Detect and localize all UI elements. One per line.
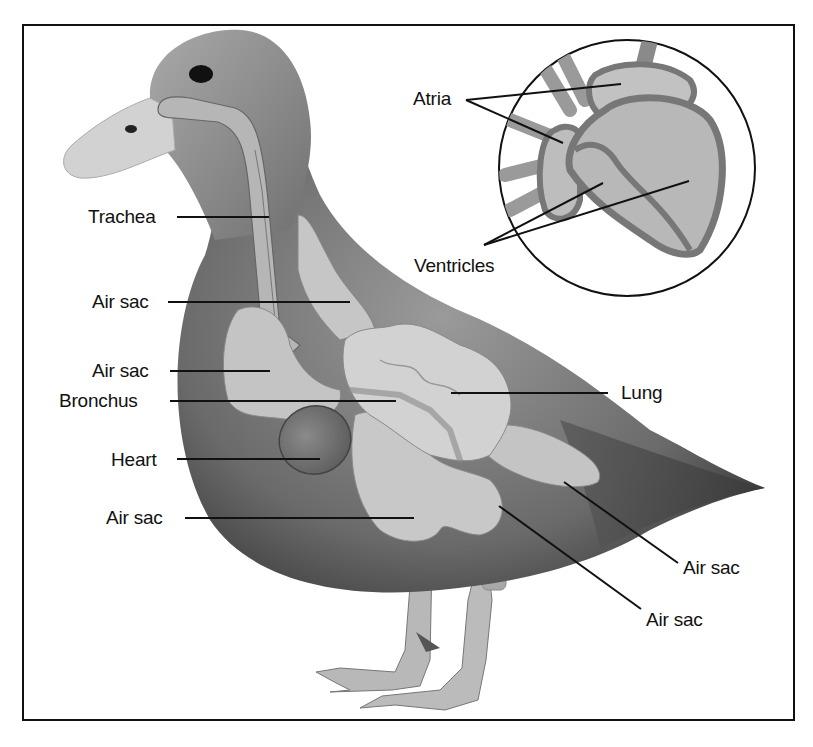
label-air-sac-abdominal: Air sac bbox=[106, 508, 163, 527]
label-atria: Atria bbox=[413, 89, 451, 108]
label-ventricles: Ventricles bbox=[414, 256, 494, 275]
label-trachea: Trachea bbox=[88, 207, 156, 226]
label-air-sac-anterior: Air sac bbox=[92, 361, 149, 380]
nostril bbox=[125, 125, 137, 133]
duck-anatomy-diagram: Atria Ventricles Trachea Air sac Air sac… bbox=[0, 0, 813, 747]
label-heart: Heart bbox=[111, 450, 156, 469]
heart-inset bbox=[499, 40, 755, 296]
label-bronchus: Bronchus bbox=[59, 391, 138, 410]
label-air-sac-posterior: Air sac bbox=[683, 558, 740, 577]
label-air-sac-lower: Air sac bbox=[646, 610, 703, 629]
label-air-sac-neck: Air sac bbox=[92, 292, 149, 311]
label-lung: Lung bbox=[621, 383, 662, 402]
eye bbox=[189, 65, 213, 83]
